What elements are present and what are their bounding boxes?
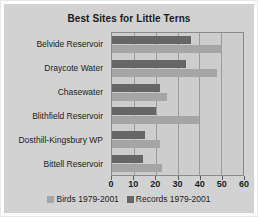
category-label: Draycote Water bbox=[6, 56, 107, 80]
bars-layer bbox=[112, 33, 243, 175]
category-label: Belvide Reservoir bbox=[6, 32, 107, 56]
category-label: Chasewater bbox=[6, 80, 107, 104]
tick-label: 0 bbox=[108, 179, 113, 189]
bar-group bbox=[112, 80, 243, 104]
bar-group bbox=[112, 151, 243, 175]
value-axis-labels: 0102030405060 bbox=[111, 179, 244, 192]
bar-birds bbox=[112, 45, 221, 53]
tick-label: 10 bbox=[128, 179, 138, 189]
category-axis: Belvide ReservoirDraycote WaterChasewate… bbox=[6, 32, 107, 176]
tick-label: 30 bbox=[172, 179, 182, 189]
chart-title: Best Sites for Little Terns bbox=[4, 13, 254, 24]
plot-area bbox=[111, 32, 244, 176]
category-label: Bittell Reservoir bbox=[6, 152, 107, 176]
legend-swatch-icon bbox=[127, 196, 134, 203]
bar-group bbox=[112, 57, 243, 81]
bar-birds bbox=[112, 116, 199, 124]
bar-records bbox=[112, 107, 156, 115]
bar-birds bbox=[112, 93, 167, 101]
bar-group bbox=[112, 104, 243, 128]
bar-group bbox=[112, 128, 243, 152]
chart-legend: Birds 1979-2001Records 1979-2001 bbox=[4, 194, 254, 204]
bar-records bbox=[112, 155, 143, 163]
legend-entry[interactable]: Records 1979-2001 bbox=[127, 194, 211, 204]
bar-birds bbox=[112, 164, 162, 172]
bar-birds bbox=[112, 69, 217, 77]
bar-records bbox=[112, 60, 186, 68]
tick-label: 20 bbox=[150, 179, 160, 189]
chart-figure: Best Sites for Little Terns Belvide Rese… bbox=[0, 0, 258, 217]
tick-label: 40 bbox=[195, 179, 205, 189]
legend-label: Birds 1979-2001 bbox=[56, 194, 118, 204]
legend-entry[interactable]: Birds 1979-2001 bbox=[47, 194, 118, 204]
tick-label: 50 bbox=[217, 179, 227, 189]
category-label: Blithfield Reservoir bbox=[6, 104, 107, 128]
bar-group bbox=[112, 33, 243, 57]
bar-birds bbox=[112, 140, 160, 148]
legend-swatch-icon bbox=[47, 196, 54, 203]
bar-records bbox=[112, 131, 145, 139]
category-label: Dosthill-Kingsbury WP bbox=[6, 128, 107, 152]
bar-records bbox=[112, 36, 191, 44]
bar-records bbox=[112, 84, 160, 92]
tick-label: 60 bbox=[239, 179, 249, 189]
legend-label: Records 1979-2001 bbox=[136, 194, 211, 204]
